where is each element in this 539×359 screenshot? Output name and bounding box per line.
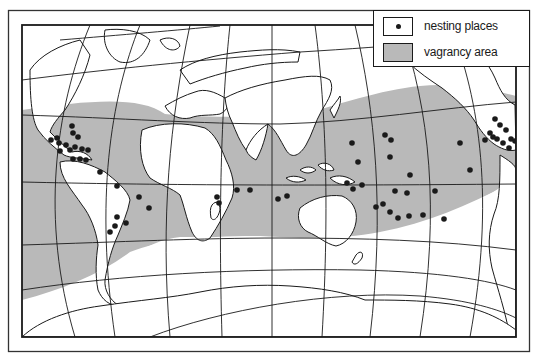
- nesting-place-dot: [406, 213, 412, 219]
- nesting-place-dot: [247, 187, 253, 193]
- nesting-place-dot: [284, 193, 290, 199]
- nesting-place-dot: [107, 229, 113, 235]
- nesting-place-dot: [85, 147, 91, 153]
- nesting-place-dot: [441, 216, 447, 222]
- legend-item-nesting-places: nesting places: [383, 17, 528, 37]
- nesting-place-dot: [494, 136, 500, 142]
- nesting-place-dot: [373, 204, 379, 210]
- nesting-place-dot: [72, 144, 78, 150]
- nesting-place-dot: [467, 167, 473, 173]
- nesting-place-dot: [387, 154, 393, 160]
- legend-label-vagrancy: vagrancy area: [424, 45, 497, 59]
- nesting-place-dot: [432, 188, 438, 194]
- nesting-place-dot: [48, 137, 54, 143]
- nesting-place-dot: [54, 135, 60, 141]
- nesting-place-dot: [497, 122, 503, 128]
- map-area: [22, 25, 518, 337]
- nesting-place-dot: [114, 214, 120, 220]
- nesting-place-dot: [70, 156, 76, 162]
- nesting-place-dot: [57, 148, 63, 154]
- nesting-place-dot: [388, 137, 394, 143]
- nesting-place-dot: [349, 140, 355, 146]
- legend-label-nesting: nesting places: [424, 19, 498, 33]
- nesting-place-dot: [387, 209, 393, 215]
- nesting-place-dot: [395, 215, 401, 221]
- nesting-place-dot: [275, 196, 281, 202]
- nesting-place-dot: [114, 183, 120, 189]
- dot-icon: [396, 24, 401, 29]
- nesting-place-dot: [63, 142, 69, 148]
- nesting-place-dot: [457, 140, 463, 146]
- nesting-place-dot: [97, 169, 103, 175]
- nesting-place-dot: [234, 187, 240, 193]
- nesting-place-dot: [75, 134, 81, 140]
- nesting-place-dot: [407, 172, 413, 178]
- nesting-place-dot: [359, 182, 365, 188]
- nesting-place-dot: [380, 201, 386, 207]
- legend: nesting places vagrancy area: [373, 10, 530, 67]
- nesting-place-dot: [123, 220, 129, 226]
- nesting-place-dot: [56, 140, 62, 146]
- nesting-place-dot: [344, 180, 350, 186]
- nesting-place-dot: [83, 157, 89, 163]
- nesting-place-dot: [112, 223, 118, 229]
- nesting-place-dot: [506, 145, 512, 151]
- nesting-place-dot: [136, 194, 142, 200]
- legend-item-vagrancy-area: vagrancy area: [383, 43, 528, 63]
- nesting-place-dot: [216, 200, 222, 206]
- nesting-place-dot: [500, 140, 506, 146]
- nesting-place-dot: [69, 123, 75, 129]
- nesting-dot-swatch: [383, 17, 413, 36]
- nesting-place-dot: [492, 116, 498, 122]
- nesting-place-dot: [214, 194, 220, 200]
- nesting-place-dot: [77, 156, 83, 162]
- nesting-place-dot: [382, 132, 388, 138]
- nesting-place-dot: [146, 205, 152, 211]
- nesting-place-dot: [420, 212, 426, 218]
- nesting-place-dot: [350, 186, 356, 192]
- nesting-place-dot: [503, 127, 509, 133]
- vagrancy-swatch: [383, 43, 413, 62]
- nesting-place-dot: [67, 147, 73, 153]
- nesting-place-dot: [404, 190, 410, 196]
- nesting-place-dot: [482, 137, 488, 143]
- nesting-place-dot: [355, 159, 361, 165]
- nesting-place-dot: [392, 188, 398, 194]
- nesting-place-dot: [79, 146, 85, 152]
- nesting-place-dot: [70, 130, 76, 136]
